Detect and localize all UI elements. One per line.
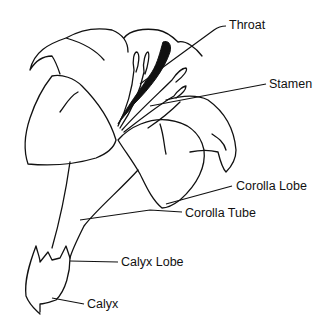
label-corolla-tube: Corolla Tube: [185, 207, 256, 220]
leader-corolla-lobe: [166, 186, 232, 204]
leader-calyx: [52, 298, 84, 304]
leader-calyx-lobe: [70, 261, 118, 262]
leader-corolla-tube: [80, 210, 182, 220]
petal-right: [148, 96, 236, 172]
calyx: [26, 246, 70, 314]
label-throat: Throat: [229, 19, 265, 32]
label-calyx-lobe: Calyx Lobe: [121, 256, 184, 269]
label-calyx: Calyx: [87, 298, 118, 311]
leader-stamen: [150, 84, 266, 106]
petal-left-back: [30, 29, 128, 74]
petal-left-front: [25, 75, 116, 164]
flower-diagram: [0, 0, 333, 328]
label-corolla-lobe: Corolla Lobe: [236, 180, 307, 193]
label-stamen: Stamen: [269, 78, 312, 91]
throat-shading: [118, 41, 171, 124]
petal-center-front: [118, 120, 204, 208]
corolla-tube: [52, 162, 138, 258]
